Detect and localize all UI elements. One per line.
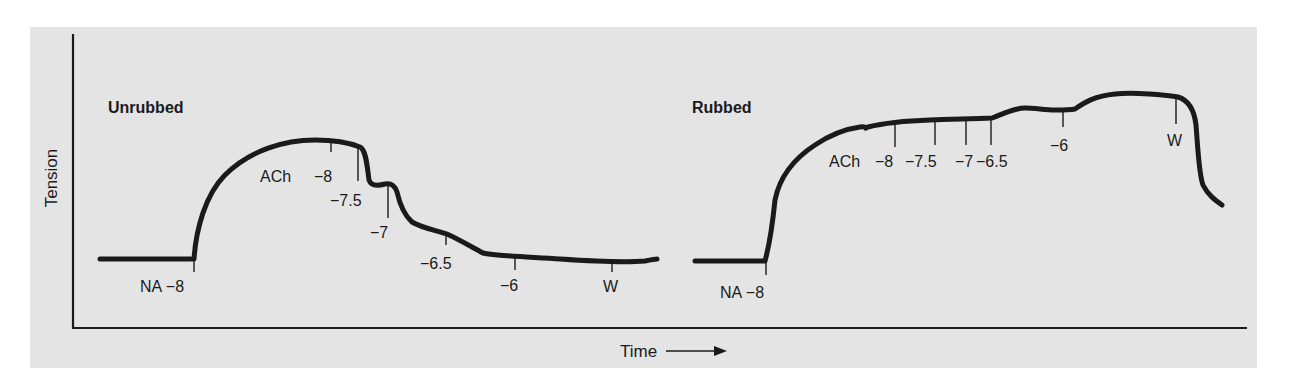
marker-label: NA −8 bbox=[140, 278, 184, 295]
tension-time-figure: Tension Time Unrubbed NA −8 ACh −8 −7.5 … bbox=[0, 0, 1291, 384]
marker-label: −6 bbox=[500, 277, 518, 294]
panel-title: Rubbed bbox=[692, 99, 752, 116]
marker-label: W bbox=[1167, 132, 1183, 149]
tension-trace bbox=[695, 93, 1222, 261]
panel-rubbed: Rubbed NA −8 ACh −8 −7.5 −7 −6.5 −6 W bbox=[692, 93, 1222, 301]
panel-title: Unrubbed bbox=[108, 99, 184, 116]
y-axis-label: Tension bbox=[42, 149, 61, 208]
panel-unrubbed: Unrubbed NA −8 ACh −8 −7.5 −7 −6.5 −6 W bbox=[100, 99, 657, 295]
marker-label: −7 bbox=[370, 224, 388, 241]
marker-label: W bbox=[603, 278, 619, 295]
marker-label: −8 bbox=[314, 168, 332, 185]
marker-label: ACh bbox=[829, 153, 860, 170]
tension-trace bbox=[100, 140, 657, 262]
x-axis-label: Time bbox=[620, 342, 657, 361]
marker-label: −7.5 bbox=[330, 192, 362, 209]
marker-label: NA −8 bbox=[720, 284, 764, 301]
marker-label: −7.5 bbox=[905, 153, 937, 170]
marker-label: −6.5 bbox=[420, 255, 452, 272]
marker-label: −6.5 bbox=[976, 153, 1008, 170]
right-arrow-icon bbox=[666, 346, 727, 356]
marker-label: −8 bbox=[875, 153, 893, 170]
marker-label: ACh bbox=[260, 168, 291, 185]
marker-label: −7 bbox=[955, 153, 973, 170]
marker-label: −6 bbox=[1050, 137, 1068, 154]
